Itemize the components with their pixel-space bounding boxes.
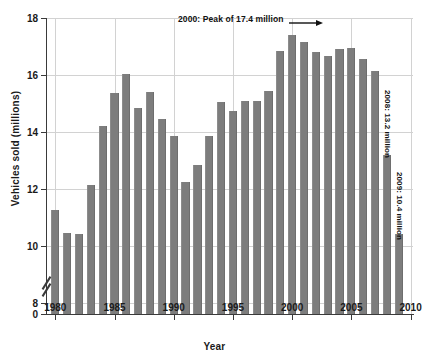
bar [146, 92, 154, 314]
bar [87, 185, 95, 315]
y-axis-title: Vehicles sold (millions) [10, 89, 21, 209]
bar [288, 35, 296, 314]
bar [181, 182, 189, 314]
bar [193, 165, 201, 314]
x-tick-label: 1995 [222, 302, 244, 313]
x-tick-label: 1980 [44, 302, 66, 313]
bar [134, 108, 142, 314]
bar [51, 210, 59, 314]
bar [300, 42, 308, 314]
bar [371, 71, 379, 314]
bar [383, 155, 391, 314]
bar [205, 136, 213, 314]
bar [158, 119, 166, 314]
x-tick-label: 2005 [340, 302, 362, 313]
bar [264, 91, 272, 314]
gridline [47, 75, 413, 76]
plot-area: 081012141618 2000: Peak of 17.4 million … [47, 18, 413, 314]
bar [276, 51, 284, 314]
y-tick [41, 132, 47, 133]
y-tick-label: 0 [32, 309, 38, 320]
annotation-peak-arrow-icon [289, 19, 323, 27]
x-axis-title: Year [0, 341, 429, 352]
y-tick [41, 18, 47, 19]
y-tick-label: 18 [27, 13, 38, 24]
bar [229, 111, 237, 315]
y-tick [41, 314, 47, 315]
bar [253, 101, 261, 314]
gridline-vertical [411, 18, 412, 314]
x-tick-label: 1985 [103, 302, 125, 313]
y-tick-label: 16 [27, 69, 38, 80]
annotation-2009-label: 2009: 10.4 million [395, 172, 404, 240]
x-tick [411, 314, 412, 320]
x-tick [55, 314, 56, 320]
chart-root: Vehicles sold (millions) Year 0810121416… [0, 0, 429, 362]
x-tick [174, 314, 175, 320]
y-tick [41, 189, 47, 190]
y-tick-label: 14 [27, 126, 38, 137]
x-tick [115, 314, 116, 320]
x-tick [233, 314, 234, 320]
y-axis-line [46, 18, 47, 314]
bar [122, 74, 130, 315]
bar [217, 102, 225, 314]
bar [75, 234, 83, 314]
bar [170, 136, 178, 314]
bar [312, 52, 320, 314]
bar [110, 93, 118, 314]
y-tick-label: 12 [27, 183, 38, 194]
y-tick-label: 10 [27, 240, 38, 251]
annotation-peak-label: 2000: Peak of 17.4 million [178, 14, 284, 24]
x-tick-label: 1990 [163, 302, 185, 313]
bar [241, 101, 249, 314]
annotation-2008-label: 2008: 13.2 million [383, 90, 392, 158]
y-tick-label: 8 [32, 297, 38, 308]
bar [335, 49, 343, 314]
x-axis-line [46, 314, 414, 315]
y-tick [41, 75, 47, 76]
bar [324, 56, 332, 314]
bar [347, 48, 355, 314]
x-tick-label: 2000 [281, 302, 303, 313]
bar [99, 126, 107, 314]
x-tick-label: 2010 [400, 302, 422, 313]
x-tick [351, 314, 352, 320]
bar [359, 59, 367, 314]
y-tick [41, 246, 47, 247]
x-tick [292, 314, 293, 320]
